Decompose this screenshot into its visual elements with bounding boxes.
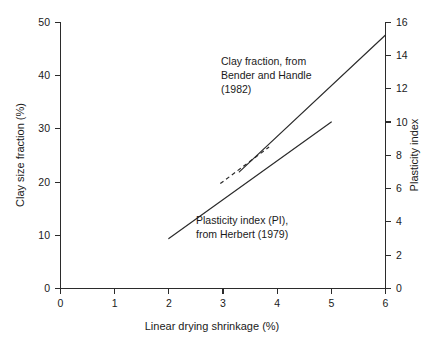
y2-tick-label-8: 8 [396, 149, 402, 161]
y-tick-label-20: 20 [38, 176, 50, 188]
x-tick-label-1: 1 [112, 297, 118, 309]
y2-tick-label-4: 4 [396, 215, 402, 227]
x-tick-label-2: 2 [166, 297, 172, 309]
y-tick-label-0: 0 [44, 282, 50, 294]
y-axis-right-title: Plasticity index [408, 118, 420, 191]
plasticity-index-annotation-line-2: from Herbert (1979) [196, 228, 288, 240]
chart-figure: 0 10 20 30 40 50 0 1 2 3 4 5 6 [0, 0, 424, 340]
clay-fraction-annotation-line-2: Bender and Handle [221, 69, 312, 81]
x-tick-label-4: 4 [274, 297, 280, 309]
y-tick-label-40: 40 [38, 69, 50, 81]
y2-tick-label-0: 0 [396, 282, 402, 294]
y2-tick-label-6: 6 [396, 182, 402, 194]
x-tick-label-0: 0 [58, 297, 64, 309]
y2-tick-label-16: 16 [396, 16, 408, 28]
clay-fraction-annotation-line-1: Clay fraction, from [221, 55, 306, 67]
y2-tick-label-2: 2 [396, 249, 402, 261]
chart-svg: 0 10 20 30 40 50 0 1 2 3 4 5 6 [0, 0, 424, 340]
clay-fraction-annotation-line-3: (1982) [221, 83, 251, 95]
x-axis-title: Linear drying shrinkage (%) [145, 320, 280, 332]
y-axis-left-title: Clay size fraction (%) [14, 103, 26, 207]
x-tick-label-3: 3 [220, 297, 226, 309]
x-tick-label-5: 5 [328, 297, 334, 309]
y2-tick-label-10: 10 [396, 116, 408, 128]
x-tick-label-6: 6 [383, 297, 389, 309]
y2-tick-label-14: 14 [396, 49, 408, 61]
y-tick-label-10: 10 [38, 229, 50, 241]
plasticity-index-annotation-line-1: Plasticity index (PI), [196, 214, 288, 226]
y-tick-label-50: 50 [38, 16, 50, 28]
y-tick-label-30: 30 [38, 122, 50, 134]
y2-tick-label-12: 12 [396, 82, 408, 94]
